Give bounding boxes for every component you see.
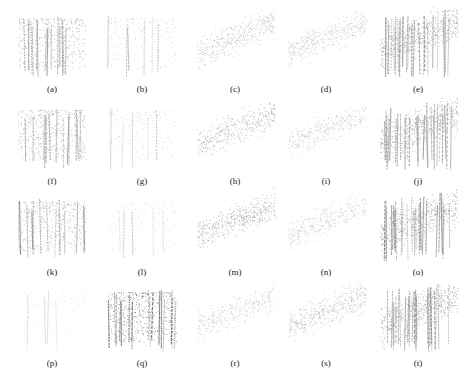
panel-caption: (h)	[189, 176, 281, 186]
point-cloud-image	[280, 96, 372, 174]
point-cloud-image	[280, 4, 372, 82]
panel-caption: (a)	[6, 84, 98, 94]
panel-caption: (k)	[6, 267, 98, 277]
panel-caption: (d)	[280, 84, 372, 94]
point-cloud-image	[6, 187, 98, 265]
point-cloud-image	[96, 4, 188, 82]
figure-panel: (d)	[280, 4, 372, 96]
panel-caption: (f)	[6, 176, 98, 186]
figure-panel: (a)	[6, 4, 98, 96]
panel-caption: (j)	[372, 176, 464, 186]
point-cloud-image	[280, 187, 372, 265]
figure-grid: (a)(b)(c)(d)(e)(f)(g)(h)(i)(j)(k)(l)(m)(…	[0, 0, 473, 389]
figure-panel: (s)	[280, 278, 372, 370]
panel-caption: (o)	[372, 267, 464, 277]
point-cloud-image	[189, 4, 281, 82]
figure-panel: (i)	[280, 96, 372, 188]
point-cloud-image	[372, 187, 464, 265]
figure-panel: (m)	[189, 187, 281, 279]
panel-caption: (g)	[96, 176, 188, 186]
point-cloud-image	[280, 278, 372, 356]
figure-panel: (f)	[6, 96, 98, 188]
figure-panel: (h)	[189, 96, 281, 188]
panel-caption: (m)	[189, 267, 281, 277]
figure-panel: (g)	[96, 96, 188, 188]
point-cloud-image	[372, 4, 464, 82]
panel-caption: (r)	[189, 358, 281, 368]
panel-caption: (t)	[372, 358, 464, 368]
panel-caption: (c)	[189, 84, 281, 94]
figure-panel: (l)	[96, 187, 188, 279]
panel-caption: (b)	[96, 84, 188, 94]
point-cloud-image	[372, 96, 464, 174]
point-cloud-image	[6, 278, 98, 356]
point-cloud-image	[189, 187, 281, 265]
panel-caption: (i)	[280, 176, 372, 186]
panel-caption: (n)	[280, 267, 372, 277]
point-cloud-image	[189, 278, 281, 356]
figure-panel: (j)	[372, 96, 464, 188]
panel-caption: (s)	[280, 358, 372, 368]
panel-caption: (e)	[372, 84, 464, 94]
point-cloud-image	[6, 96, 98, 174]
figure-panel: (o)	[372, 187, 464, 279]
figure-panel: (q)	[96, 278, 188, 370]
figure-panel: (k)	[6, 187, 98, 279]
figure-panel: (b)	[96, 4, 188, 96]
point-cloud-image	[96, 187, 188, 265]
figure-panel: (n)	[280, 187, 372, 279]
figure-panel: (r)	[189, 278, 281, 370]
point-cloud-image	[372, 278, 464, 356]
panel-caption: (l)	[96, 267, 188, 277]
panel-caption: (p)	[6, 358, 98, 368]
point-cloud-image	[6, 4, 98, 82]
figure-panel: (e)	[372, 4, 464, 96]
panel-caption: (q)	[96, 358, 188, 368]
figure-panel: (p)	[6, 278, 98, 370]
point-cloud-image	[96, 278, 188, 356]
figure-panel: (t)	[372, 278, 464, 370]
figure-panel: (c)	[189, 4, 281, 96]
point-cloud-image	[96, 96, 188, 174]
point-cloud-image	[189, 96, 281, 174]
